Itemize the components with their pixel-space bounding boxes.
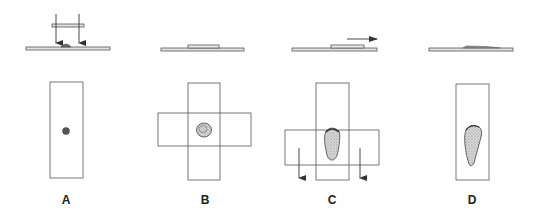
- panel-b: [158, 45, 251, 180]
- top-slide: [331, 45, 364, 48]
- panel-a: [26, 14, 110, 178]
- panel-c-side-view: [292, 39, 377, 51]
- panel-label-c: C: [322, 193, 342, 207]
- specimen-smear: [465, 126, 482, 166]
- panel-c-top-view: [285, 83, 379, 180]
- bottom-slide: [26, 47, 110, 50]
- specimen-drop: [63, 128, 70, 135]
- panel-a-side-view: [26, 14, 110, 50]
- panel-label-d: D: [462, 193, 482, 207]
- specimen-spread: [197, 123, 212, 137]
- bottom-slide: [292, 48, 377, 51]
- specimen-smear: [325, 128, 340, 160]
- panel-d: [429, 46, 513, 180]
- panel-c: [285, 39, 379, 180]
- panel-a-top-view: [50, 82, 83, 178]
- specimen-drop: [61, 44, 71, 47]
- smear-procedure-diagram: [0, 0, 535, 218]
- bottom-slide: [161, 48, 244, 51]
- panel-label-b: B: [195, 193, 215, 207]
- panel-d-side-view: [429, 46, 513, 51]
- panel-d-top-view: [456, 84, 489, 180]
- panel-b-side-view: [161, 45, 244, 51]
- top-slide: [188, 45, 219, 48]
- panel-b-top-view: [158, 83, 251, 180]
- panel-label-a: A: [56, 193, 76, 207]
- smear-wedge: [463, 46, 500, 48]
- bottom-slide: [429, 48, 513, 51]
